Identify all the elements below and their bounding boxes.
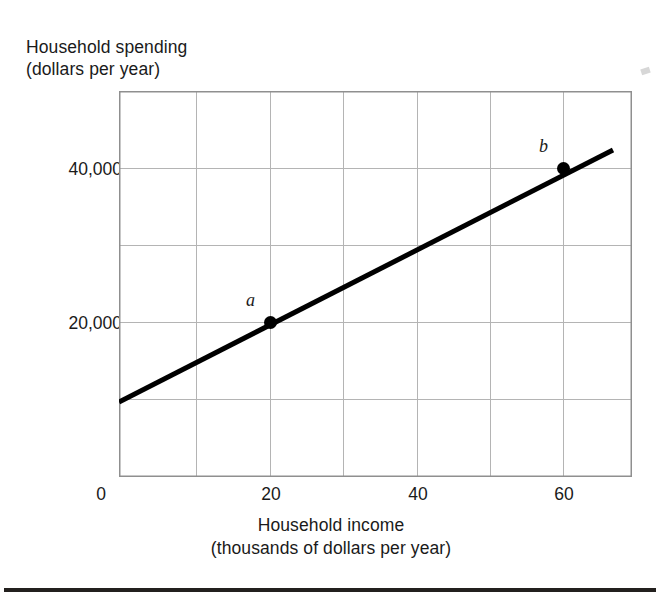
data-point-b xyxy=(557,162,570,175)
x-axis-title-line2: (thousands of dollars per year) xyxy=(0,537,662,560)
x-tick-label-0: 0 xyxy=(61,486,141,504)
x-axis-title-line1: Household income xyxy=(258,515,405,535)
x-axis-title: Household income (thousands of dollars p… xyxy=(0,514,662,560)
y-axis-title: Household spending (dollars per year) xyxy=(26,36,187,80)
plot-background xyxy=(119,91,632,477)
y-tick-label-40000: 40,000 xyxy=(22,161,122,179)
bottom-divider-rule xyxy=(4,588,656,592)
y-tick-label-20000: 20,000 xyxy=(22,315,122,333)
data-point-a-label: a xyxy=(246,291,255,309)
data-point-b-label: b xyxy=(539,137,548,155)
data-point-a xyxy=(264,316,277,329)
x-tick-label-60: 60 xyxy=(524,486,604,504)
plot-svg xyxy=(119,91,632,477)
y-axis-title-line1: Household spending xyxy=(26,37,187,57)
x-tick-label-40: 40 xyxy=(378,486,458,504)
plot-area: a b xyxy=(119,91,632,477)
x-tick-label-20: 20 xyxy=(231,486,311,504)
y-axis-title-line2: (dollars per year) xyxy=(26,58,187,80)
scan-artifact-mark xyxy=(640,67,650,75)
figure-household-spending-chart: Household spending (dollars per year) 40… xyxy=(0,0,662,603)
